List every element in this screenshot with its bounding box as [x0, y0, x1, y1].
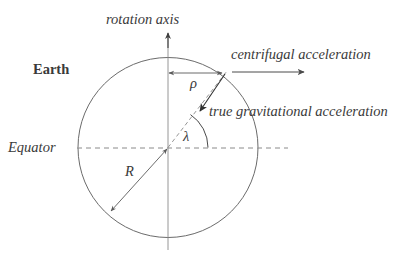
- earth-rotation-diagram: rotation axis centrifugal acceleration t…: [0, 0, 420, 260]
- centrifugal-acceleration-label: centrifugal acceleration: [231, 47, 371, 62]
- rotation-axis-label: rotation axis: [106, 12, 179, 27]
- lambda-symbol-label: λ: [183, 129, 189, 144]
- earth-radius-arrow: [111, 149, 167, 211]
- radius-symbol-label: R: [125, 164, 134, 179]
- rho-symbol-label: ρ: [190, 76, 197, 91]
- diagram-canvas: [0, 0, 420, 260]
- true-gravitational-acceleration-label: true gravitational acceleration: [209, 104, 388, 119]
- earth-label: Earth: [33, 62, 69, 77]
- equator-label: Equator: [8, 140, 56, 155]
- latitude-angle-arc: [191, 115, 209, 148]
